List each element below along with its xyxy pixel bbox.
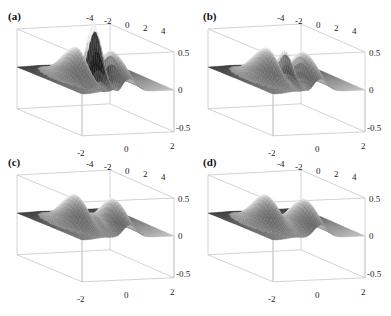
x-tick: 0 bbox=[125, 167, 130, 176]
panel-label: (d) bbox=[203, 156, 216, 168]
z-tick: 0.5 bbox=[369, 195, 380, 204]
x-tick: 2 bbox=[143, 170, 148, 179]
z-tick: 0.5 bbox=[369, 49, 380, 58]
y-tick: 0 bbox=[315, 291, 320, 300]
z-tick: -0.5 bbox=[176, 270, 190, 279]
x-tick: -2 bbox=[104, 163, 112, 172]
z-tick: -0.5 bbox=[367, 270, 381, 279]
x-tick: 4 bbox=[352, 173, 357, 182]
x-tick: 2 bbox=[334, 170, 339, 179]
surface-plot-a bbox=[0, 0, 196, 158]
panel-label: (b) bbox=[203, 10, 216, 22]
z-tick: 0 bbox=[178, 232, 183, 241]
y-tick: 0 bbox=[124, 291, 129, 300]
panel-b: (b) -4 -2 0 2 4 0.5 0 -0.5 -2 0 2 bbox=[195, 0, 391, 158]
panel-d: (d) -4 -2 0 2 4 0.5 0 -0.5 -2 0 2 bbox=[195, 150, 391, 308]
x-tick: -4 bbox=[277, 14, 285, 23]
x-tick: 2 bbox=[143, 24, 148, 33]
y-tick: -2 bbox=[77, 295, 85, 304]
z-tick: -0.5 bbox=[367, 124, 381, 133]
panel-a: (a) -4 -2 0 2 4 0.5 0 -0.5 -2 0 2 bbox=[0, 0, 196, 158]
panel-c: (c) -4 -2 0 2 4 0.5 0 -0.5 -2 0 2 bbox=[0, 150, 196, 308]
x-tick: 0 bbox=[316, 167, 321, 176]
surface-plot-b bbox=[195, 0, 391, 158]
x-tick: 4 bbox=[161, 27, 166, 36]
y-tick: -2 bbox=[268, 295, 276, 304]
x-tick: 4 bbox=[352, 27, 357, 36]
y-tick: 2 bbox=[170, 288, 175, 297]
z-tick: 0 bbox=[369, 232, 374, 241]
z-tick: 0.5 bbox=[178, 195, 189, 204]
x-tick: 2 bbox=[334, 24, 339, 33]
z-tick: 0 bbox=[178, 86, 183, 95]
panel-label: (a) bbox=[8, 10, 21, 22]
z-tick: 0.5 bbox=[178, 49, 189, 58]
x-tick: -2 bbox=[104, 17, 112, 26]
panel-label: (c) bbox=[8, 156, 20, 168]
z-tick: 0 bbox=[369, 86, 374, 95]
x-tick: 0 bbox=[125, 21, 130, 30]
x-tick: -4 bbox=[277, 160, 285, 169]
surface-plot-c bbox=[0, 150, 196, 308]
x-tick: 4 bbox=[161, 173, 166, 182]
z-tick: -0.5 bbox=[176, 124, 190, 133]
x-tick: -2 bbox=[295, 17, 303, 26]
x-tick: -4 bbox=[86, 160, 94, 169]
x-tick: -4 bbox=[86, 14, 94, 23]
y-tick: 2 bbox=[361, 288, 366, 297]
surface-plot-d bbox=[195, 150, 391, 308]
x-tick: 0 bbox=[316, 21, 321, 30]
x-tick: -2 bbox=[295, 163, 303, 172]
